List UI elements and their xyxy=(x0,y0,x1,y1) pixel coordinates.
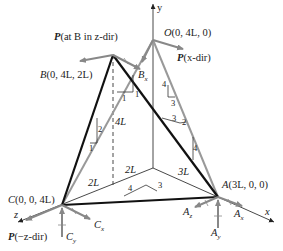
p-at-b-arrow xyxy=(80,55,113,61)
slope-oa-rise: 4 xyxy=(162,79,167,89)
o-reaction-arrow xyxy=(142,40,153,62)
slope-ob-rise: 1 xyxy=(135,89,139,99)
slope-oa-run: 3 xyxy=(171,98,175,108)
y-axis-label: y xyxy=(157,2,163,13)
p-at-b-label: P(at B in z-dir) xyxy=(54,31,118,43)
svg-text:B(0, 4L, 2L): B(0, 4L, 2L) xyxy=(40,69,93,81)
ax-label: Ax xyxy=(233,208,244,222)
member-ca xyxy=(62,197,218,205)
slope-ba-b: 2 xyxy=(182,117,186,127)
svg-text:O(0, 4L, 0): O(0, 4L, 0) xyxy=(164,27,212,39)
dimension-3l: 3L xyxy=(177,166,189,177)
z-axis-label: z xyxy=(13,209,18,220)
truss-figure: 1 1 2 1 4 3 3 2 4 4 3 4L 2L 2L 3L y x z xyxy=(0,0,283,251)
member-ba xyxy=(113,55,218,197)
point-b-coords: (0, 4L, 2L) xyxy=(46,69,93,81)
label-o: O(0, 4L, 0) xyxy=(164,27,212,39)
p-neg-z-label: P(−z-dir) xyxy=(8,231,48,243)
truss-diagram: 1 1 2 1 4 3 3 2 4 4 3 4L 2L 2L 3L y x z xyxy=(0,0,283,251)
cy-label: Cy xyxy=(66,231,77,245)
bx-label: Bx xyxy=(138,69,148,83)
slope-ob-run: 1 xyxy=(122,93,126,103)
p-neg-z-arrow xyxy=(26,205,62,220)
p-x-label: P(x-dir) xyxy=(177,52,211,64)
cx-arrow xyxy=(62,205,90,219)
label-c: C(0, 0, 4L) xyxy=(8,194,55,206)
slope-ca-b: 3 xyxy=(158,180,162,190)
svg-text:A(3L, 0, 0): A(3L, 0, 0) xyxy=(221,179,269,191)
svg-text:C(0, 0, 4L): C(0, 0, 4L) xyxy=(8,194,55,206)
slope-ba-a: 3 xyxy=(172,113,176,123)
label-b: B(0, 4L, 2L) xyxy=(40,69,93,81)
point-o-coords: (0, 4L, 0) xyxy=(172,27,212,39)
dimension-4l: 4L xyxy=(115,116,126,127)
cx-label: Cx xyxy=(94,219,105,233)
dimension-2l-z: 2L xyxy=(88,177,99,188)
gray-members xyxy=(62,40,218,205)
member-oc xyxy=(62,40,153,205)
label-a: A(3L, 0, 0) xyxy=(221,179,269,191)
x-axis xyxy=(153,168,274,222)
p-x-arrow xyxy=(153,40,183,49)
ay-label: Ay xyxy=(210,227,221,241)
slope-cb-run: 1 xyxy=(89,143,93,153)
point-c-coords: (0, 0, 4L) xyxy=(15,194,55,206)
x-axis-label: x xyxy=(264,206,270,217)
ax-arrow xyxy=(218,197,242,206)
point-a-coords: (3L, 0, 0) xyxy=(228,179,268,191)
az-label: Az xyxy=(182,206,192,220)
slope-cb-rise: 2 xyxy=(98,124,102,134)
dimension-2l-base: 2L xyxy=(125,164,136,175)
